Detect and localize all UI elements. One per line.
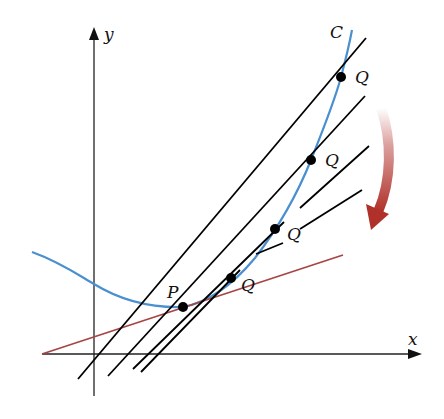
point-p-label: P — [166, 282, 179, 302]
x-axis-label: x — [408, 329, 418, 349]
diagram-canvas: y x C P Q Q Q Q — [0, 0, 444, 419]
secant-line-2 — [108, 96, 365, 376]
point-q4 — [226, 273, 236, 283]
point-q1-label: Q — [355, 67, 369, 87]
secant-line-4b — [300, 190, 362, 229]
point-q3-label: Q — [287, 224, 301, 244]
curved-arrow-icon — [366, 108, 389, 230]
y-axis — [89, 27, 99, 396]
point-q4-label: Q — [241, 275, 255, 295]
y-axis-arrow-icon — [89, 27, 99, 40]
secant-line-1 — [78, 38, 366, 379]
point-q3 — [270, 224, 280, 234]
point-p — [178, 302, 188, 312]
x-axis-arrow-icon — [408, 349, 422, 359]
secant-tangent-diagram: y x C P Q Q Q Q — [0, 0, 444, 419]
tangent-line — [42, 255, 343, 354]
point-q1 — [336, 72, 346, 82]
y-axis-label: y — [103, 24, 114, 44]
curve-label: C — [330, 22, 343, 42]
point-q2 — [306, 155, 316, 165]
curve-c — [32, 30, 352, 307]
point-q2-label: Q — [325, 150, 339, 170]
